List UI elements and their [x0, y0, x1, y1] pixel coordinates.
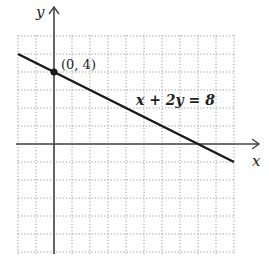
y-axis-label: y — [35, 3, 45, 21]
equation-label: x + 2y = 8 — [135, 92, 215, 108]
axes — [16, 7, 259, 254]
x-axis-label: x — [252, 152, 261, 170]
data-point — [50, 68, 57, 75]
coordinate-plane: y x (0, 4) x + 2y = 8 — [0, 0, 269, 261]
point-label: (0, 4) — [61, 57, 96, 72]
